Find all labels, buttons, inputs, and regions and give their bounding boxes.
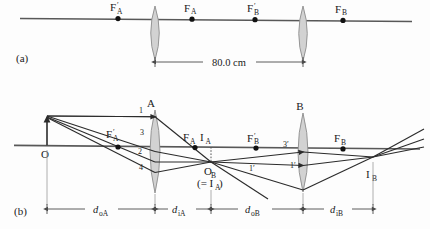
dim-label-diB: d iB bbox=[330, 204, 343, 218]
ray-exit-upper bbox=[373, 129, 424, 157]
image-label-i-b: I B bbox=[366, 168, 377, 183]
focal-label-base: F bbox=[247, 2, 253, 14]
ray-label-1: 1 bbox=[139, 106, 143, 115]
object-label-o: O bbox=[41, 148, 49, 160]
ray-3p-refracted bbox=[303, 152, 373, 157]
focal-label-sub: A bbox=[117, 7, 123, 16]
ray-label-2: 2 bbox=[138, 147, 142, 156]
focal-label-base: F bbox=[110, 1, 116, 13]
focal-dot-f-prime-b-panel-a bbox=[252, 17, 257, 22]
object-arrow-o bbox=[44, 116, 51, 146]
panel-b: A B O bbox=[14, 97, 424, 218]
optical-axis-a bbox=[20, 19, 412, 22]
focal-label-sub: A bbox=[113, 134, 119, 143]
focal-dot-f-a-panel-a bbox=[189, 17, 194, 22]
lens-a-panel-a bbox=[151, 6, 160, 60]
lens-b-label: B bbox=[296, 100, 303, 112]
focal-label-f-prime-a-panel-b: F ′ A bbox=[106, 128, 119, 143]
optical-axis-b bbox=[14, 145, 420, 149]
focal-dot-f-b-panel-b bbox=[340, 146, 345, 151]
ray-marginal-refracted bbox=[303, 157, 373, 190]
ray-1p-refracted bbox=[303, 157, 373, 166]
focal-label-base: F bbox=[247, 132, 253, 144]
image-label-base: I bbox=[200, 131, 204, 143]
focal-dot-f-prime-a-panel-b bbox=[115, 144, 120, 149]
ray-label-3: 3 bbox=[140, 128, 144, 137]
dim-label-diA: d iA bbox=[172, 204, 186, 218]
focal-label-base: F bbox=[183, 131, 189, 143]
focal-label-f-prime-a-panel-a: F ′ A bbox=[110, 1, 123, 16]
object-b-note-end: ) bbox=[219, 177, 223, 190]
ray-4-refracted bbox=[155, 162, 211, 173]
separation-dimension: 80.0 cm bbox=[155, 57, 303, 68]
focal-label-base: F bbox=[335, 3, 341, 15]
distance-dimensions: d oA d iA d oB bbox=[47, 204, 373, 218]
image-label-base: I bbox=[366, 168, 370, 180]
focal-label-f-a-panel-a: F A bbox=[184, 2, 197, 17]
focal-label-base: F bbox=[106, 128, 112, 140]
focal-label-base: F bbox=[184, 2, 190, 14]
focal-label-f-b-panel-a: F B bbox=[335, 3, 347, 18]
focal-label-f-prime-b-panel-b: F ′ B bbox=[247, 132, 259, 147]
ray-label-3-prime: 3′ bbox=[283, 140, 289, 149]
focal-label-sub: B bbox=[341, 138, 346, 147]
dim-label-sub: oB bbox=[251, 209, 260, 218]
dim-label-sub: iA bbox=[178, 209, 186, 218]
focal-label-sub: A bbox=[191, 7, 197, 16]
lens-b-panel-a bbox=[299, 6, 308, 61]
ray-construction-top bbox=[47, 116, 155, 117]
image-label-i-a: I A bbox=[200, 131, 212, 146]
focal-label-f-prime-b-panel-a: F ′ B bbox=[247, 2, 259, 17]
object-b-label: O B (= I A ) bbox=[197, 165, 223, 192]
focal-dot-f-prime-a-panel-a bbox=[115, 16, 120, 21]
dim-label-doB: d oB bbox=[245, 204, 260, 218]
focal-label-f-a-panel-b: F A bbox=[183, 131, 196, 146]
ray-label-1-prime-right: 1′ bbox=[290, 161, 296, 170]
panel-a-label: (a) bbox=[16, 52, 29, 65]
dim-label-sub: oA bbox=[99, 209, 109, 218]
figure-canvas: F ′ A F A F ′ B F B bbox=[0, 0, 430, 229]
panel-a: F ′ A F A F ′ B F B bbox=[16, 1, 412, 68]
dim-label-doA: d oA bbox=[93, 204, 109, 218]
object-b-note: (= I bbox=[197, 177, 214, 190]
panel-b-label: (b) bbox=[14, 205, 27, 218]
image-label-sub: A bbox=[206, 137, 212, 146]
ray-3-refracted bbox=[155, 152, 211, 163]
focal-label-sub: B bbox=[254, 137, 259, 146]
ray-label-1-prime-left: 1′ bbox=[249, 164, 255, 173]
focal-label-sub: B bbox=[254, 8, 259, 17]
lens-a-label: A bbox=[147, 97, 155, 109]
ray-label-4: 4 bbox=[139, 163, 143, 172]
optics-figure: F ′ A F A F ′ B F B bbox=[0, 0, 430, 229]
focal-label-sub: B bbox=[342, 8, 347, 17]
dim-label-sub: iB bbox=[336, 209, 343, 218]
focal-label-f-b-panel-b: F B bbox=[334, 132, 346, 147]
separation-label: 80.0 cm bbox=[212, 57, 246, 68]
focal-dot-f-b-panel-a bbox=[340, 18, 345, 23]
focal-label-base: F bbox=[334, 132, 340, 144]
focal-label-sub: A bbox=[190, 137, 196, 146]
